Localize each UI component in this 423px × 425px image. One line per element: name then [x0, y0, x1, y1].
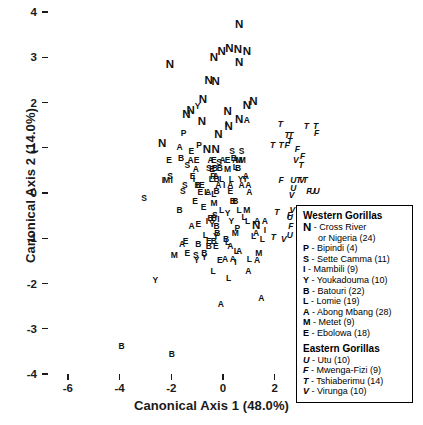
data-point-M: M: [210, 199, 217, 208]
data-point-N: N: [214, 129, 222, 141]
legend-label-L: - Lomie (19): [309, 296, 360, 306]
data-point-I: I: [171, 176, 173, 185]
y-tick-label: 4: [31, 6, 37, 18]
data-point-U: U: [287, 230, 293, 239]
data-point-N: N: [212, 76, 220, 88]
legend-entry-T: T - Tshiaberimu (14): [303, 376, 407, 387]
y-axis-label: Canonical Axis 2 (14.0%): [23, 71, 38, 301]
data-point-V: V: [289, 206, 295, 215]
data-point-M: M: [163, 176, 170, 185]
legend-label-E: - Ebolowa (18): [309, 328, 370, 338]
data-point-A: A: [262, 217, 268, 226]
data-point-M: M: [171, 251, 178, 260]
legend-entry-I: I - Mambili (9): [303, 264, 407, 275]
y-tick-label: -3: [27, 323, 37, 335]
legend-label-cont-N: or Nigeria (24): [303, 233, 407, 244]
data-point-V: V: [289, 191, 295, 200]
data-point-U: U: [314, 186, 320, 195]
data-point-T: T: [278, 120, 283, 129]
data-point-Y: Y: [195, 102, 201, 111]
data-point-N: N: [166, 60, 174, 72]
data-point-T: T: [313, 122, 318, 131]
data-point-L: L: [226, 274, 231, 283]
legend-entry-L: L - Lomie (19): [303, 296, 407, 307]
data-point-F: F: [279, 176, 284, 185]
data-point-L: L: [260, 235, 265, 244]
data-point-A: A: [253, 229, 259, 238]
legend-eastern-entries: U - Utu (10)F - Mwenga-Fizi (9)T - Tshia…: [303, 355, 407, 397]
data-point-N: N: [234, 44, 242, 56]
y-tick-label: -4: [27, 368, 37, 380]
data-point-E: E: [192, 197, 198, 206]
x-tick-label: -6: [63, 382, 73, 394]
data-point-T: T: [298, 161, 303, 170]
legend-entry-A: A - Abong Mbang (28): [303, 307, 407, 318]
legend-entry-U: U - Utu (10): [303, 355, 407, 366]
data-point-M: M: [255, 248, 262, 257]
data-point-N: N: [235, 57, 243, 69]
data-point-N: N: [210, 52, 218, 64]
data-point-M: M: [243, 206, 250, 215]
legend-title-eastern: Eastern Gorillas: [303, 343, 407, 354]
data-point-M: M: [239, 156, 246, 165]
legend-entry-M: M - Metet (9): [303, 317, 407, 328]
data-point-S: S: [141, 194, 147, 203]
legend-entry-E: E - Ebolowa (18): [303, 328, 407, 339]
x-tick-label: 0: [220, 382, 226, 394]
data-point-P: P: [181, 129, 187, 138]
data-point-A: A: [205, 188, 211, 197]
legend: Western Gorillas N - Cross Riveror Niger…: [296, 205, 413, 403]
data-point-L: L: [245, 217, 250, 226]
legend-label-I: - Mambili (9): [306, 264, 359, 274]
data-point-V: V: [293, 156, 299, 165]
data-point-N: N: [212, 144, 220, 156]
data-point-A: A: [239, 181, 245, 190]
data-point-A: A: [244, 115, 250, 124]
canonical-variates-scatter-figure: -4-3-2-101234 -6-4-20246 NNNNNNNNNNNNNNN…: [0, 0, 423, 425]
data-point-I: I: [225, 120, 227, 129]
data-point-V: V: [299, 176, 305, 185]
x-tick-mark: [119, 374, 120, 380]
data-point-A: A: [245, 267, 251, 276]
data-point-A: A: [258, 294, 264, 303]
data-point-E: E: [183, 236, 189, 245]
data-point-E: E: [184, 248, 190, 257]
data-point-N: N: [182, 109, 190, 121]
data-point-E: E: [194, 156, 200, 165]
data-point-E: E: [206, 236, 212, 245]
legend-entry-V: V - Virunga (10): [303, 386, 407, 397]
data-point-A: A: [227, 242, 233, 251]
legend-label-T: - Tshiaberimu (14): [309, 376, 384, 386]
legend-label-F: - Mwenga-Fizi (9): [309, 365, 382, 375]
y-tick-label: 3: [31, 51, 37, 63]
data-point-N: N: [198, 116, 206, 128]
data-point-F: F: [288, 221, 293, 230]
data-point-F: F: [306, 186, 311, 195]
legend-western-entries: N - Cross Riveror Nigeria (24)P - Bipind…: [303, 222, 407, 339]
legend-entry-P: P - Bipindi (4): [303, 243, 407, 254]
legend-entry-Y: Y - Youkadouma (10): [303, 275, 407, 286]
data-point-T: T: [287, 137, 292, 146]
data-point-N: N: [235, 114, 243, 126]
legend-label-N: - Cross River: [311, 222, 366, 232]
data-point-Y: Y: [225, 209, 231, 218]
data-point-N: N: [243, 46, 251, 58]
x-tick-mark: [67, 374, 68, 380]
data-point-A: A: [246, 188, 252, 197]
data-point-B: B: [178, 153, 184, 162]
data-point-E: E: [209, 165, 215, 174]
legend-label-P: - Bipindi (4): [309, 243, 358, 253]
x-tick-mark: [171, 374, 172, 380]
data-point-A: A: [230, 254, 236, 263]
data-point-A: A: [254, 217, 260, 226]
data-point-E: E: [217, 256, 223, 265]
data-point-B: B: [119, 342, 125, 351]
legend-label-V: - Virunga (10): [309, 386, 366, 396]
data-point-A: A: [236, 247, 242, 256]
data-point-E: E: [190, 172, 196, 181]
data-point-T: T: [274, 208, 279, 217]
data-point-L: L: [247, 254, 252, 263]
data-point-T: T: [271, 233, 276, 242]
legend-label-M: - Metet (9): [311, 317, 355, 327]
legend-entry-B: B - Batouri (22): [303, 286, 407, 297]
